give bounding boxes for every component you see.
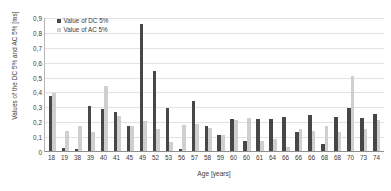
x-axis-title: Age [years] [44, 170, 384, 177]
bar-ac[interactable] [299, 129, 303, 151]
bar-ac[interactable] [104, 86, 108, 151]
x-tick-label: 68 [331, 154, 344, 161]
y-axis-title: Values of the DC 5% and AC 5% [ms] [11, 0, 18, 136]
bar-group[interactable] [331, 18, 344, 151]
x-tick-label: 74 [370, 154, 383, 161]
x-tick-label: 73 [357, 154, 370, 161]
bar-ac[interactable] [143, 121, 147, 151]
x-tick-label: 45 [123, 154, 136, 161]
bar-group[interactable] [370, 18, 383, 151]
y-tick-label: 0,7 [33, 44, 42, 51]
y-tick-label: 0,9 [33, 15, 42, 22]
bar-ac[interactable] [221, 135, 225, 151]
bar-ac[interactable] [65, 131, 69, 151]
bar-ac[interactable] [286, 147, 290, 151]
legend-item[interactable]: Value of AC 5% [57, 25, 109, 34]
x-tick-label: 59 [214, 154, 227, 161]
bar-group[interactable] [150, 18, 163, 151]
x-axis-tick-labels: 1819383940414549525356575859606061646666… [44, 154, 384, 161]
x-tick-label: 64 [266, 154, 279, 161]
bar-ac[interactable] [195, 124, 199, 151]
bar-group[interactable] [59, 18, 72, 151]
bar-group[interactable] [344, 18, 357, 151]
bar-group[interactable] [202, 18, 215, 151]
bar-ac[interactable] [351, 76, 355, 151]
bar-ac[interactable] [234, 120, 238, 151]
x-tick-label: 38 [71, 154, 84, 161]
bar-chart-figure: Values of the DC 5% and AC 5% [ms] 00,10… [0, 0, 391, 191]
bar-group[interactable] [241, 18, 254, 151]
bar-ac[interactable] [377, 120, 381, 151]
bar-group[interactable] [189, 18, 202, 151]
bar-group[interactable] [176, 18, 189, 151]
bar-ac[interactable] [364, 129, 368, 151]
bar-ac[interactable] [52, 93, 56, 151]
bar-ac[interactable] [325, 126, 329, 151]
x-tick-label: 66 [279, 154, 292, 161]
y-tick-label: 0,5 [33, 74, 42, 81]
bar-group[interactable] [111, 18, 124, 151]
y-tick-label: 0,1 [33, 134, 42, 141]
x-tick-label: 68 [318, 154, 331, 161]
bar-group[interactable] [228, 18, 241, 151]
bar-ac[interactable] [208, 128, 212, 151]
bar-ac[interactable] [130, 126, 134, 151]
x-tick-label: 49 [136, 154, 149, 161]
y-tick-label: 0,6 [33, 59, 42, 66]
bar-ac[interactable] [117, 116, 121, 151]
x-tick-label: 53 [162, 154, 175, 161]
bar-group[interactable] [46, 18, 59, 151]
bar-ac[interactable] [156, 129, 160, 151]
bar-group[interactable] [266, 18, 279, 151]
legend-label: Value of AC 5% [64, 26, 108, 33]
x-tick-label: 66 [292, 154, 305, 161]
legend-swatch-icon [57, 19, 61, 23]
bar-group[interactable] [279, 18, 292, 151]
bar-series-container [45, 18, 384, 151]
legend-item[interactable]: Value of DC 5% [57, 16, 109, 25]
x-tick-label: 70 [344, 154, 357, 161]
bar-ac[interactable] [338, 132, 342, 151]
bar-ac[interactable] [91, 132, 95, 151]
bar-group[interactable] [305, 18, 318, 151]
x-tick-label: 58 [201, 154, 214, 161]
chart-legend: Value of DC 5%Value of AC 5% [57, 16, 109, 34]
y-tick-label: 0 [38, 149, 42, 156]
x-tick-label: 39 [84, 154, 97, 161]
bar-ac[interactable] [169, 142, 173, 151]
bar-ac[interactable] [78, 126, 82, 151]
bar-group[interactable] [318, 18, 331, 151]
plot-area [44, 18, 384, 152]
bar-group[interactable] [254, 18, 267, 151]
y-tick-label: 0,4 [33, 89, 42, 96]
bar-ac[interactable] [260, 141, 264, 151]
bar-group[interactable] [98, 18, 111, 151]
bar-ac[interactable] [273, 139, 277, 151]
y-tick-label: 0,2 [33, 119, 42, 126]
bar-group[interactable] [215, 18, 228, 151]
x-tick-label: 52 [149, 154, 162, 161]
x-tick-label: 56 [175, 154, 188, 161]
x-tick-label: 60 [227, 154, 240, 161]
bar-group[interactable] [124, 18, 137, 151]
x-tick-label: 19 [58, 154, 71, 161]
legend-swatch-icon [57, 28, 61, 32]
x-tick-label: 18 [45, 154, 58, 161]
bar-ac[interactable] [182, 125, 186, 151]
bar-group[interactable] [292, 18, 305, 151]
y-axis-tick-labels: 00,10,20,30,40,50,60,70,80,9 [26, 12, 42, 156]
bar-group[interactable] [85, 18, 98, 151]
x-tick-label: 57 [188, 154, 201, 161]
x-tick-label: 61 [253, 154, 266, 161]
bar-group[interactable] [72, 18, 85, 151]
x-tick-label: 60 [240, 154, 253, 161]
x-tick-label: 41 [110, 154, 123, 161]
bar-group[interactable] [137, 18, 150, 151]
legend-label: Value of DC 5% [64, 17, 109, 24]
bar-group[interactable] [163, 18, 176, 151]
x-tick-label: 66 [305, 154, 318, 161]
bar-ac[interactable] [247, 118, 251, 152]
bar-group[interactable] [357, 18, 370, 151]
y-tick-label: 0,3 [33, 104, 42, 111]
bar-ac[interactable] [312, 131, 316, 151]
